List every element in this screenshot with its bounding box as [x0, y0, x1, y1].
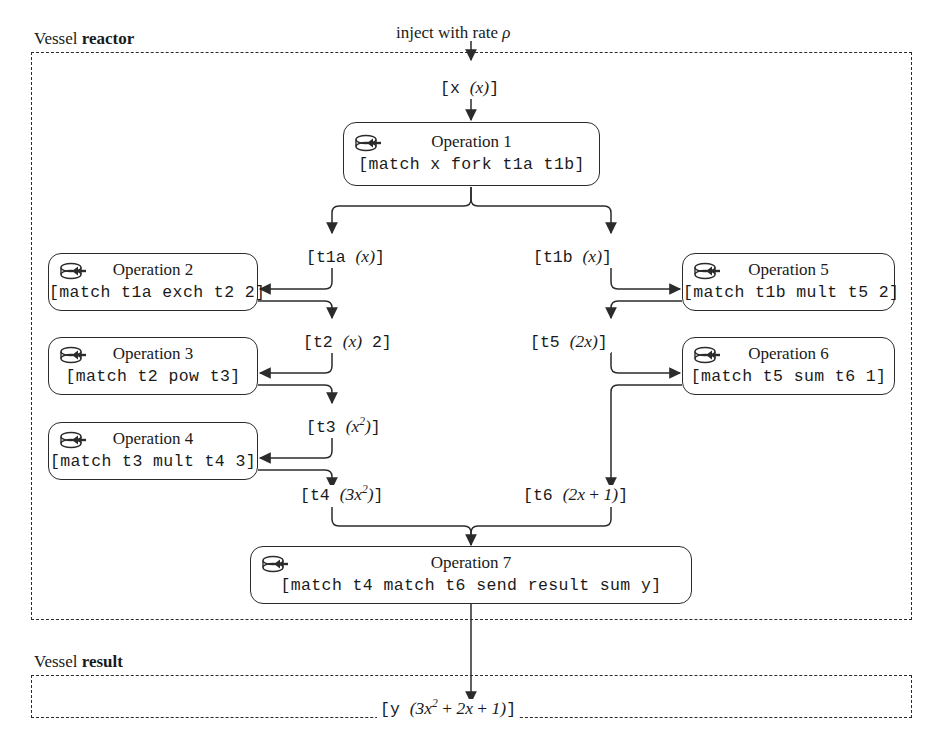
channel-label-t3: [t3 (x2)] — [303, 417, 384, 438]
channel-x-name: x — [450, 79, 460, 98]
channel-t3-name: t3 — [316, 418, 336, 437]
operation-op2-title: Operation 2 — [113, 260, 194, 279]
operation-op7-code: [match t4 match t6 send result sum y] — [251, 577, 691, 595]
disk-arrow-icon — [58, 431, 88, 449]
vessel-reactor-label: Vessel reactor — [32, 30, 139, 47]
operation-op3-title: Operation 3 — [113, 344, 194, 363]
channel-t2-name: t2 — [313, 333, 333, 352]
channel-y-value: (3x2 + 2x + 1) — [410, 698, 506, 718]
operation-op6-title-row: Operation 6 — [683, 345, 894, 365]
channel-t1a-value: (x) — [356, 246, 375, 266]
channel-x-value: (x) — [470, 77, 489, 97]
operation-op7-title: Operation 7 — [431, 553, 512, 572]
reactor-diagram: Vessel reactor Vessel result inject with… — [0, 0, 942, 752]
disk-arrow-icon — [692, 346, 722, 364]
disk-arrow-icon — [58, 262, 88, 280]
operation-op2-code: [match t1a exch t2 2] — [49, 284, 257, 302]
operation-box-op1[interactable]: Operation 1 [match x fork t1a t1b] — [343, 122, 600, 186]
channel-t3-value: (x2) — [346, 416, 371, 436]
vessel-reactor-label-name: reactor — [82, 29, 135, 48]
channel-label-y: [y (3x2 + 2x + 1)] — [377, 699, 519, 720]
operation-op5-code: [match t1b mult t5 2] — [683, 284, 894, 302]
channel-label-t2: [t2 (x) 2] — [300, 332, 395, 353]
disk-arrow-icon — [692, 262, 722, 280]
operation-box-op7[interactable]: Operation 7 [match t4 match t6 send resu… — [250, 546, 692, 604]
operation-op2-title-row: Operation 2 — [49, 261, 257, 281]
operation-box-op6[interactable]: Operation 6 [match t5 sum t6 1] — [682, 337, 895, 395]
channel-y-name: y — [390, 700, 400, 719]
vessel-reactor-label-prefix: Vessel — [34, 29, 82, 48]
channel-t1b-value: (x) — [583, 246, 602, 266]
operation-op1-code: [match x fork t1a t1b] — [344, 156, 599, 174]
inject-rate-prefix: inject with rate — [396, 23, 502, 42]
operation-op3-code: [match t2 pow t3] — [49, 368, 257, 386]
channel-label-x: [x (x)] — [437, 78, 502, 99]
channel-t6-name: t6 — [533, 486, 553, 505]
disk-arrow-icon — [58, 346, 88, 364]
operation-box-op2[interactable]: Operation 2 [match t1a exch t2 2] — [48, 253, 258, 311]
vessel-result-label-prefix: Vessel — [34, 652, 82, 671]
operation-op4-code: [match t3 mult t4 3] — [49, 453, 257, 471]
channel-label-t1b: [t1b (x)] — [530, 247, 615, 268]
channel-t1b-name: t1b — [543, 248, 573, 267]
operation-op6-title: Operation 6 — [748, 344, 829, 363]
operation-op4-title-row: Operation 4 — [49, 430, 257, 450]
operation-op5-title: Operation 5 — [748, 260, 829, 279]
operation-op6-code: [match t5 sum t6 1] — [683, 368, 894, 386]
vessel-result-label-name: result — [82, 652, 123, 671]
channel-t1a-name: t1a — [316, 248, 346, 267]
operation-op1-title: Operation 1 — [431, 132, 512, 151]
disk-arrow-icon — [353, 134, 383, 152]
channel-label-t4: [t4 (3x2)] — [297, 485, 386, 506]
channel-label-t6: [t6 (2x + 1)] — [520, 485, 631, 506]
channel-t5-name: t5 — [540, 333, 560, 352]
channel-t2-value: (x) — [343, 331, 362, 351]
operation-box-op3[interactable]: Operation 3 [match t2 pow t3] — [48, 337, 258, 395]
channel-t4-name: t4 — [310, 486, 330, 505]
channel-label-t5: [t5 (2x)] — [527, 332, 611, 353]
inject-rate-annotation: inject with rate ρ — [392, 24, 514, 41]
operation-box-op4[interactable]: Operation 4 [match t3 mult t4 3] — [48, 422, 258, 480]
operation-box-op5[interactable]: Operation 5 [match t1b mult t5 2] — [682, 253, 895, 311]
operation-op1-title-row: Operation 1 — [344, 133, 599, 153]
channel-label-t1a: [t1a (x)] — [303, 247, 388, 268]
operation-op4-title: Operation 4 — [113, 429, 194, 448]
channel-t4-value: (3x2) — [340, 484, 374, 504]
rho-symbol: ρ — [502, 23, 510, 42]
disk-arrow-icon — [260, 555, 290, 573]
operation-op7-title-row: Operation 7 — [251, 554, 691, 574]
operation-op3-title-row: Operation 3 — [49, 345, 257, 365]
operation-op5-title-row: Operation 5 — [683, 261, 894, 281]
channel-t5-value: (2x) — [570, 331, 598, 351]
channel-t6-value: (2x + 1) — [563, 484, 619, 504]
vessel-result-label: Vessel result — [32, 653, 128, 670]
